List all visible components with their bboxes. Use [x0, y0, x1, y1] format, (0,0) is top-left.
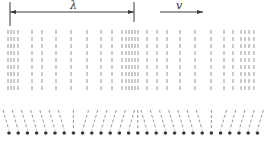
- particle-dot: [16, 131, 20, 135]
- displacement-line: [40, 110, 46, 130]
- displacement-line: [159, 110, 165, 130]
- displacement-line: [49, 110, 55, 130]
- particle-dot: [246, 131, 250, 135]
- particle-dot: [136, 131, 140, 135]
- displacement-line: [221, 110, 227, 130]
- particle-dot: [256, 131, 260, 135]
- displacement-line: [169, 110, 175, 130]
- particle-dot: [219, 131, 223, 135]
- particle-dot: [108, 131, 112, 135]
- wave-figure: [0, 0, 269, 148]
- displacement-line: [129, 110, 135, 130]
- arrowhead-right-icon: [197, 10, 203, 14]
- particle-dot: [210, 131, 214, 135]
- particle-dot: [35, 131, 39, 135]
- compression-columns: [8, 30, 254, 92]
- particle-dot: [26, 131, 30, 135]
- particle-dot: [99, 131, 103, 135]
- particle-dot: [72, 131, 76, 135]
- displacement-line: [58, 110, 64, 130]
- arrowhead-left-icon: [10, 10, 16, 14]
- particle-dot: [81, 131, 85, 135]
- displacement-line: [239, 110, 245, 130]
- particle-dot: [237, 131, 241, 135]
- displacement-line: [110, 110, 116, 130]
- displacement-line: [119, 110, 125, 130]
- displacement-line: [150, 110, 156, 130]
- velocity-label: v: [176, 0, 182, 11]
- displacement-line: [141, 110, 147, 130]
- displacement-line: [12, 110, 18, 130]
- displacement-line: [248, 110, 254, 130]
- particle-dot: [182, 131, 186, 135]
- particle-dot: [164, 131, 168, 135]
- particle-dot: [90, 131, 94, 135]
- displacement-line: [257, 110, 263, 130]
- wavelength-label: λ: [70, 0, 77, 11]
- particle-dot: [173, 131, 177, 135]
- particle-dot: [145, 131, 149, 135]
- particle-dot: [191, 131, 195, 135]
- particle-dot: [7, 131, 11, 135]
- displacement-line: [187, 110, 193, 130]
- particle-dot: [53, 131, 57, 135]
- particle-dot: [118, 131, 122, 135]
- displacement-line: [178, 110, 184, 130]
- particle-dot: [200, 131, 204, 135]
- displacement-line: [21, 110, 27, 130]
- particle-dot: [127, 131, 131, 135]
- displacement-line: [92, 110, 98, 130]
- displacement-line: [31, 110, 37, 130]
- particle-dot: [44, 131, 48, 135]
- displacement-line: [196, 110, 202, 130]
- displacement-line: [101, 110, 107, 130]
- particle-dot: [228, 131, 232, 135]
- particle-dot: [62, 131, 66, 135]
- displacement-line: [3, 110, 9, 130]
- longitudinal-wave-diagram: λ v: [0, 0, 269, 148]
- particle-row: [3, 110, 263, 135]
- displacement-line: [83, 110, 89, 130]
- particle-dot: [154, 131, 158, 135]
- arrowhead-right-icon: [128, 10, 134, 14]
- displacement-line: [230, 110, 236, 130]
